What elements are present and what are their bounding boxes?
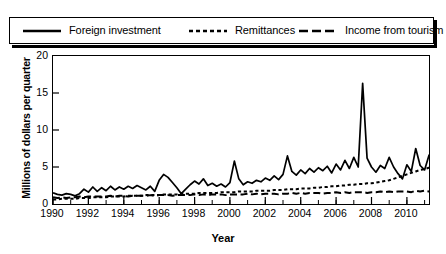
legend-items: Foreign investmentRemittancesIncome from… xyxy=(10,18,433,43)
plot-area xyxy=(52,55,430,205)
x-tick-label: 2002 xyxy=(244,208,284,219)
chart-legend: Foreign investmentRemittancesIncome from… xyxy=(9,17,434,44)
y-tick-label: 10 xyxy=(26,124,48,134)
legend-item-income-from-tourism[interactable]: Income from tourism xyxy=(298,25,443,37)
x-tick-label: 1996 xyxy=(138,208,178,219)
legend-label: Income from tourism xyxy=(345,25,443,36)
chart-figure: Foreign investmentRemittancesIncome from… xyxy=(0,0,446,254)
y-axis-title-wrap: Millions of dollars per quarter xyxy=(2,66,16,206)
x-tick-label: 2008 xyxy=(350,208,390,219)
x-tick-label: 1998 xyxy=(174,208,214,219)
x-tick-label: 1994 xyxy=(103,208,143,219)
dashed-line-icon xyxy=(298,25,338,37)
legend-label: Foreign investment xyxy=(69,25,161,36)
legend-item-remittances[interactable]: Remittances xyxy=(188,25,295,37)
legend-label: Remittances xyxy=(235,25,295,36)
x-tick-label: 2000 xyxy=(209,208,249,219)
x-tick-label: 2010 xyxy=(386,208,426,219)
x-tick-label: 1990 xyxy=(32,208,72,219)
y-tick-label: 20 xyxy=(26,50,48,60)
plot-svg xyxy=(53,56,429,204)
x-tick-label: 2006 xyxy=(315,208,355,219)
y-tick-label: 5 xyxy=(26,161,48,171)
x-axis-title: Year xyxy=(0,232,446,244)
y-tick-label: 15 xyxy=(26,87,48,97)
x-tick-label: 2004 xyxy=(280,208,320,219)
legend-shadow-bottom xyxy=(12,45,437,48)
dotted-line-icon xyxy=(188,25,228,37)
x-tick-label: 1992 xyxy=(67,208,107,219)
